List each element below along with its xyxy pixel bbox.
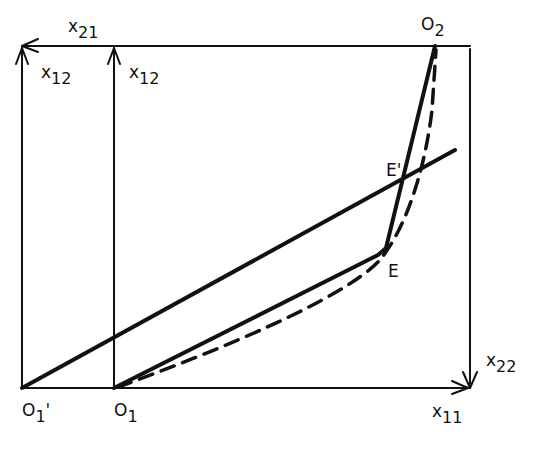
label-O1-prime: O1' xyxy=(22,402,50,425)
label-x21: x21 xyxy=(68,18,98,41)
label-E-prime: E' xyxy=(386,162,401,179)
label-x12-outer: x12 xyxy=(41,64,71,87)
label-x12-inner: x12 xyxy=(129,64,159,87)
label-E: E xyxy=(388,263,399,280)
label-x11: x11 xyxy=(432,403,462,426)
contract-path-solid xyxy=(114,46,435,388)
diagram-lines xyxy=(0,0,534,449)
contract-curve-dashed xyxy=(118,50,436,387)
label-x22: x22 xyxy=(486,352,516,375)
label-O1: O1 xyxy=(114,402,138,425)
edgeworth-box-diagram: x21 x12 x12 O2 E' E x22 O1' O1 x11 xyxy=(0,0,534,449)
label-O2: O2 xyxy=(421,16,445,39)
